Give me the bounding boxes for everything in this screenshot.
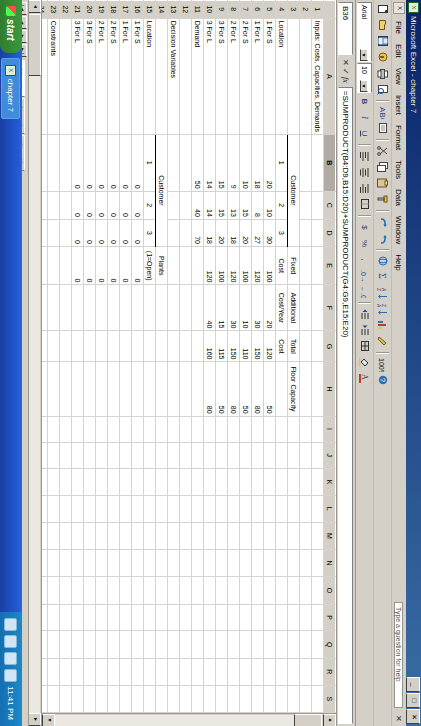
table-row[interactable]: 24 [42,1,48,713]
row-header-8[interactable]: 8 [228,1,240,19]
cell-P22[interactable] [60,604,72,631]
hscroll-track[interactable] [30,76,41,713]
cell-R1[interactable] [312,658,324,685]
cell-D21[interactable]: 0 [72,219,84,246]
cell-D1[interactable] [312,219,324,246]
cell-C11[interactable]: 40 [192,191,204,219]
cell-J21[interactable] [72,442,84,468]
cell-C18[interactable]: 0 [108,191,120,219]
cell-S1[interactable] [312,685,324,712]
cell-C6[interactable]: 8 [252,191,264,219]
row-header-12[interactable]: 12 [180,1,192,19]
cell-G17[interactable] [120,331,132,362]
cell-S9[interactable] [216,685,228,712]
row-header-11[interactable]: 11 [192,1,204,19]
zoom-icon[interactable]: 100% [375,357,390,372]
row-header-15[interactable]: 15 [144,1,156,19]
cell-P7[interactable] [240,604,252,631]
cell-F18[interactable] [108,285,120,331]
currency-button[interactable]: $ [357,220,372,235]
cell-O21[interactable] [72,577,84,604]
cell-J24[interactable] [42,442,48,468]
cell-K3[interactable] [288,469,300,496]
cell-N8[interactable] [228,550,240,577]
cell-E15[interactable]: (1=Open) [144,246,156,284]
cell-I3[interactable] [288,416,300,442]
cell-D23[interactable] [48,219,60,246]
cell-R15[interactable] [144,658,156,685]
cell-K19[interactable] [96,469,108,496]
cell-A17[interactable]: 1 For L [120,18,132,134]
cell-M13[interactable] [168,522,180,549]
cell-P23[interactable] [48,604,60,631]
cell-Q7[interactable] [240,631,252,658]
cell-C8[interactable]: 13 [228,191,240,219]
cell-B18[interactable]: 0 [108,134,120,191]
cell-P14[interactable] [156,604,168,631]
cell-J10[interactable] [204,442,216,468]
cell-H23[interactable] [48,362,60,416]
column-header-d[interactable]: D [324,219,336,246]
chart-wizard-icon[interactable] [375,318,390,333]
cell-A20[interactable]: 3 For S [84,18,96,134]
cell-G14[interactable] [156,331,168,362]
cell-Q3[interactable] [288,631,300,658]
cell-H1[interactable] [312,362,324,416]
table-row[interactable]: 23Constraints [48,1,60,713]
cell-L7[interactable] [240,495,252,522]
help-icon[interactable]: ? [375,373,390,388]
cell-O13[interactable] [168,577,180,604]
cell-C24[interactable] [42,191,48,219]
cell-H7[interactable]: 50 [240,362,252,416]
cell-F16[interactable] [132,285,144,331]
cell-F19[interactable] [96,285,108,331]
cell-F13[interactable] [168,285,180,331]
cell-M18[interactable] [108,522,120,549]
cell-H14[interactable] [156,362,168,416]
table-row[interactable]: 11Demand504070 [192,1,204,713]
cell-B12[interactable] [180,134,192,191]
cell-Q17[interactable] [120,631,132,658]
cell-R9[interactable] [216,658,228,685]
new-icon[interactable] [375,2,390,17]
cell-A14[interactable] [156,18,168,134]
cell-M15[interactable] [144,522,156,549]
cell-A10[interactable]: 3 For L [204,18,216,134]
network-icon[interactable] [5,618,18,631]
cell-O3[interactable] [288,577,300,604]
cell-G7[interactable]: 110 [240,331,252,362]
cell-S6[interactable] [252,685,264,712]
cell-F7[interactable]: 10 [240,285,252,331]
decrease-decimal-icon[interactable]: ←.0 [357,284,372,299]
drawing-icon[interactable] [375,334,390,349]
cell-E5[interactable]: 100 [264,246,276,284]
cell-G12[interactable] [180,331,192,362]
cell-H24[interactable] [42,362,48,416]
cell-C16[interactable]: 0 [132,191,144,219]
cell-D13[interactable] [168,219,180,246]
cell-J18[interactable] [108,442,120,468]
formula-input[interactable]: =SUMPRODUCT(B4:D9,B15:D20)+SUMPRODUCT(G4… [339,87,354,724]
cell-C1[interactable] [312,191,324,219]
cell-D8[interactable]: 18 [228,219,240,246]
table-row[interactable]: 213 For L0000 [72,1,84,713]
cell-C22[interactable] [60,191,72,219]
cell-N21[interactable] [72,550,84,577]
cell-P3[interactable] [288,604,300,631]
cell-S20[interactable] [84,685,96,712]
cell-F5[interactable]: 20 [264,285,276,331]
column-header-s[interactable]: S [324,685,336,712]
cell-A8[interactable]: 2 For L [228,18,240,134]
cell-L11[interactable] [192,495,204,522]
cell-E19[interactable]: 0 [96,246,108,284]
cell-P8[interactable] [228,604,240,631]
cell-G21[interactable] [72,331,84,362]
cell-L10[interactable] [204,495,216,522]
cell-O22[interactable] [60,577,72,604]
cell-Q12[interactable] [180,631,192,658]
cell-J9[interactable] [216,442,228,468]
cell-B2[interactable] [300,134,312,191]
cell-G23[interactable] [48,331,60,362]
scroll-down-icon[interactable]: ▼ [42,714,55,726]
spreadsheet-table[interactable]: ABCDEFGHIJKLMNOPQRS1Inputs: Costs, Capac… [42,0,336,713]
